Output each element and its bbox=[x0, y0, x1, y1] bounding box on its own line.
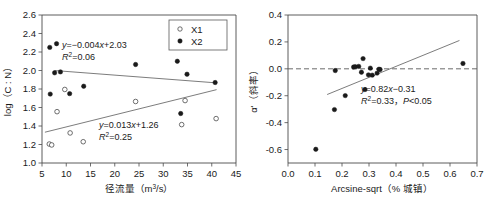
x-tick-label: 45 bbox=[231, 168, 242, 179]
y-tick-label: 1.0 bbox=[23, 157, 36, 168]
left-eq-x1-tail: +1.26 bbox=[136, 120, 159, 130]
right-y-tick-group: -0.6-0.4-0.20.00.20.4 bbox=[266, 9, 288, 155]
x-tick-label: 30 bbox=[158, 168, 169, 179]
left-y-axis-title-text: log（C : N） bbox=[2, 62, 13, 116]
data-point bbox=[378, 67, 382, 71]
svg-text:R2=0.25: R2=0.25 bbox=[99, 131, 132, 143]
regression-fit-line bbox=[55, 71, 217, 83]
svg-text:y=0.013x+1.26: y=0.013x+1.26 bbox=[98, 120, 159, 130]
y-tick-label: -0.2 bbox=[266, 90, 282, 101]
x-tick-label: 0.1 bbox=[308, 168, 321, 179]
two-panel-scatter-figure: 1.01.21.41.61.82.02.22.42.6 510152025303… bbox=[0, 0, 491, 203]
data-point bbox=[333, 68, 337, 72]
legend-marker-x2 bbox=[178, 39, 182, 43]
right-eq-tail: −0.31 bbox=[393, 84, 416, 94]
right-x-tick-group: 0.00.10.20.30.40.50.60.7 bbox=[281, 163, 483, 179]
left-eq-x2-tail: +2.03 bbox=[104, 40, 127, 50]
data-point bbox=[185, 72, 189, 76]
right-scatter-panel: -0.6-0.4-0.20.00.20.4 0.00.10.20.30.40.5… bbox=[245, 0, 491, 203]
data-point bbox=[133, 99, 138, 104]
left-eq-x1-rhs: =0.013 bbox=[104, 120, 132, 130]
data-point bbox=[179, 122, 184, 127]
data-point bbox=[81, 139, 86, 144]
data-point bbox=[175, 59, 179, 63]
left-y-tick-group: 1.01.21.41.61.82.02.22.42.6 bbox=[23, 9, 42, 168]
data-point bbox=[48, 92, 52, 96]
svg-text:y=0.82x−0.31: y=0.82x−0.31 bbox=[360, 84, 416, 94]
left-equation-x2: y=−0.004x+2.03 R2=0.06 bbox=[61, 40, 127, 62]
left-panel-svg: 1.01.21.41.61.82.02.22.42.6 510152025303… bbox=[0, 0, 245, 203]
x-tick-label: 0.5 bbox=[416, 168, 429, 179]
left-x-tick-group: 51015202530354045 bbox=[39, 163, 241, 179]
data-point bbox=[179, 111, 183, 115]
left-equation-x1: y=0.013x+1.26 R2=0.25 bbox=[98, 120, 159, 142]
x-tick-label: 35 bbox=[182, 168, 193, 179]
data-point bbox=[54, 41, 58, 45]
left-y-axis-title: log（C : N） bbox=[2, 62, 13, 116]
y-tick-label: 0.2 bbox=[269, 36, 282, 47]
left-x-axis-title-main: 径流量（m bbox=[105, 183, 153, 194]
right-y-axis-title-text: α'（斜率） bbox=[248, 65, 259, 112]
y-tick-label: -0.4 bbox=[266, 117, 282, 128]
data-point bbox=[214, 116, 219, 121]
legend-label-x1: X1 bbox=[191, 24, 203, 35]
y-tick-label: 2.4 bbox=[23, 28, 36, 39]
x-tick-label: 20 bbox=[109, 168, 120, 179]
right-panel-svg: -0.6-0.4-0.20.00.20.4 0.00.10.20.30.40.5… bbox=[245, 0, 491, 203]
data-point bbox=[359, 70, 363, 74]
x-tick-label: 0.3 bbox=[362, 168, 375, 179]
data-point bbox=[314, 147, 318, 151]
data-point bbox=[133, 62, 137, 66]
data-point bbox=[48, 45, 52, 49]
y-tick-label: 2.0 bbox=[23, 65, 36, 76]
right-p-value: <0.05 bbox=[409, 96, 432, 106]
x-tick-label: 40 bbox=[206, 168, 217, 179]
y-tick-label: 1.4 bbox=[23, 120, 36, 131]
x-tick-label: 0.4 bbox=[389, 168, 402, 179]
x-tick-label: 0.0 bbox=[281, 168, 294, 179]
y-tick-label: -0.6 bbox=[266, 144, 282, 155]
legend-label-x2: X2 bbox=[191, 36, 203, 47]
right-x-axis-title: Arcsine-sqrt（% 城镇） bbox=[331, 183, 433, 194]
data-point bbox=[332, 107, 336, 111]
data-point bbox=[68, 131, 73, 136]
data-point bbox=[49, 143, 54, 148]
data-point bbox=[357, 64, 361, 68]
x-tick-label: 0.7 bbox=[470, 168, 483, 179]
y-tick-label: 2.6 bbox=[23, 9, 36, 20]
data-point bbox=[461, 61, 465, 65]
right-equation: y=0.82x−0.31 R2=0.33，P<0.05 bbox=[360, 84, 432, 106]
x-tick-label: 15 bbox=[85, 168, 96, 179]
right-eq-rhs: =0.82 bbox=[366, 84, 389, 94]
data-point bbox=[67, 91, 71, 95]
svg-text:R2=0.06: R2=0.06 bbox=[62, 51, 95, 63]
data-point bbox=[361, 56, 365, 60]
y-tick-label: 1.8 bbox=[23, 83, 36, 94]
svg-text:R2=0.33，P<0.05: R2=0.33，P<0.05 bbox=[361, 95, 432, 107]
y-tick-label: 0.4 bbox=[269, 9, 282, 20]
y-tick-label: 2.2 bbox=[23, 46, 36, 57]
data-point bbox=[368, 66, 372, 70]
y-tick-label: 1.2 bbox=[23, 139, 36, 150]
x-tick-label: 5 bbox=[39, 168, 44, 179]
left-r2-x1-value: =0.25 bbox=[109, 132, 132, 142]
right-r2-value: =0.33， bbox=[371, 96, 403, 106]
legend-marker-x1 bbox=[178, 27, 182, 31]
data-point bbox=[55, 109, 60, 114]
data-point bbox=[58, 70, 62, 74]
right-x-axis-title-text: Arcsine-sqrt（% 城镇） bbox=[331, 183, 433, 194]
left-eq-x2-rhs: =−0.004 bbox=[67, 40, 100, 50]
x-tick-label: 0.2 bbox=[335, 168, 348, 179]
right-y-axis-title: α'（斜率） bbox=[248, 65, 259, 112]
svg-text:y=−0.004x+2.03: y=−0.004x+2.03 bbox=[61, 40, 127, 50]
y-tick-label: 1.6 bbox=[23, 102, 36, 113]
data-point bbox=[213, 80, 217, 84]
x-tick-label: 25 bbox=[134, 168, 145, 179]
x-tick-label: 10 bbox=[61, 168, 72, 179]
y-tick-label: 0.0 bbox=[269, 63, 282, 74]
left-scatter-panel: 1.01.21.41.61.82.02.22.42.6 510152025303… bbox=[0, 0, 245, 203]
left-legend: X1 X2 bbox=[169, 20, 227, 50]
svg-text:径流量（m3/s）: 径流量（m3/s） bbox=[105, 183, 174, 195]
left-x-axis-title-tail: /s） bbox=[156, 183, 173, 194]
data-point bbox=[62, 87, 67, 92]
